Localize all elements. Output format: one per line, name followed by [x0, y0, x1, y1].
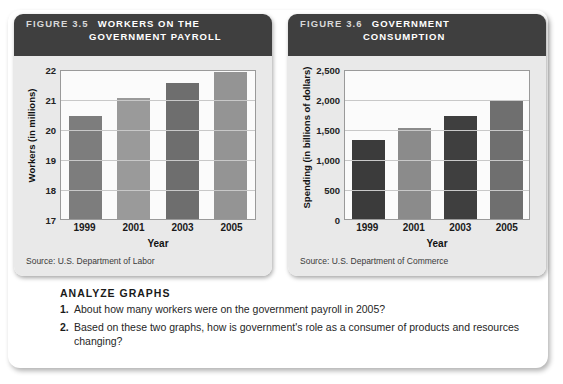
y-axis-tick-label: 18 [45, 185, 56, 196]
plot-area-3-5 [60, 70, 256, 220]
analyze-graphs-heading: ANALYZE GRAPHS [60, 287, 530, 299]
bar [398, 128, 431, 219]
y-axis-tick-label: 22 [45, 65, 56, 76]
figure-title-line2-3-6: CONSUMPTION [363, 31, 536, 42]
y-axis-tick-label: 17 [45, 215, 56, 226]
figure-card-3-6: FIGURE 3.6 GOVERNMENT CONSUMPTION Spendi… [288, 14, 546, 276]
figure-number-3-6: FIGURE 3.6 [300, 19, 363, 29]
x-axis-ticks-3-5: 1999200120032005 [60, 222, 256, 236]
y-axis-ticks-3-5: 171819202122 [22, 70, 56, 220]
figures-row: FIGURE 3.5 WORKERS ON THE GOVERNMENT PAY… [14, 14, 542, 279]
gridline [345, 160, 529, 161]
x-axis-tick-label: 1999 [68, 222, 101, 233]
bar [69, 116, 102, 220]
figure-title-line1-3-6: GOVERNMENT [372, 19, 450, 29]
y-axis-ticks-3-6: 05001,0001,5002,0002,500 [298, 70, 340, 220]
bar [352, 140, 385, 219]
figure-header-3-5: FIGURE 3.5 WORKERS ON THE GOVERNMENT PAY… [14, 14, 272, 56]
x-axis-tick-label: 2003 [166, 222, 199, 233]
gridline [61, 160, 255, 161]
y-axis-tick-label: 1,500 [316, 125, 340, 136]
figure-body-3-6: Spending (in billions of dollars) 05001,… [288, 56, 546, 276]
question-number: 1. [60, 303, 74, 315]
y-axis-tick-label: 19 [45, 155, 56, 166]
analyze-graphs-section: ANALYZE GRAPHS 1. About how many workers… [60, 287, 530, 353]
gridline [345, 190, 529, 191]
bar-group-3-5 [61, 71, 255, 219]
y-axis-tick-label: 21 [45, 95, 56, 106]
question-number: 2. [60, 321, 74, 333]
gridline [61, 130, 255, 131]
source-note-3-5: Source: U.S. Department of Labor [26, 256, 155, 266]
x-axis-tick-label: 2003 [444, 222, 477, 233]
bar [166, 83, 199, 220]
x-axis-tick-label: 2005 [490, 222, 523, 233]
gridline [345, 130, 529, 131]
x-axis-tick-label: 2001 [117, 222, 150, 233]
x-axis-title-3-6: Year [344, 238, 530, 249]
y-axis-tick-label: 20 [45, 125, 56, 136]
y-axis-tick-label: 500 [324, 185, 340, 196]
x-axis-title-3-5: Year [60, 238, 256, 249]
question-item: 2. Based on these two graphs, how is gov… [60, 321, 530, 349]
worksheet-card: FIGURE 3.5 WORKERS ON THE GOVERNMENT PAY… [8, 10, 548, 368]
figure-card-3-5: FIGURE 3.5 WORKERS ON THE GOVERNMENT PAY… [14, 14, 272, 276]
question-text: Based on these two graphs, how is govern… [74, 321, 530, 349]
figure-number-3-5: FIGURE 3.5 [26, 19, 89, 29]
figure-title-line2-3-5: GOVERNMENT PAYROLL [89, 31, 262, 42]
y-axis-tick-label: 0 [335, 215, 340, 226]
bar [117, 98, 150, 220]
x-axis-ticks-3-6: 1999200120032005 [344, 222, 530, 236]
bar [214, 72, 247, 219]
x-axis-tick-label: 2005 [215, 222, 248, 233]
bar [444, 116, 477, 219]
y-axis-tick-label: 1,000 [316, 155, 340, 166]
x-axis-tick-label: 1999 [351, 222, 384, 233]
source-note-3-6: Source: U.S. Department of Commerce [300, 256, 448, 266]
plot-area-3-6 [344, 70, 530, 220]
question-item: 1. About how many workers were on the go… [60, 303, 530, 317]
gridline [61, 190, 255, 191]
gridline [61, 100, 255, 101]
x-axis-tick-label: 2001 [397, 222, 430, 233]
figure-title-line1-3-5: WORKERS ON THE [98, 19, 200, 29]
y-axis-tick-label: 2,500 [316, 65, 340, 76]
figure-body-3-5: Workers (in millions) 171819202122 19992… [14, 56, 272, 276]
bar-group-3-6 [345, 71, 529, 219]
y-axis-tick-label: 2,000 [316, 95, 340, 106]
question-text: About how many workers were on the gover… [74, 303, 385, 317]
gridline [345, 100, 529, 101]
figure-header-3-6: FIGURE 3.6 GOVERNMENT CONSUMPTION [288, 14, 546, 56]
